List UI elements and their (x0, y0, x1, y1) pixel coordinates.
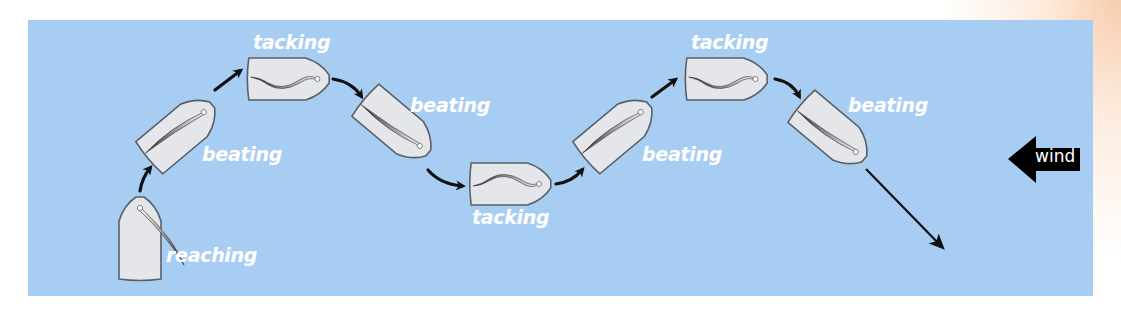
boat-tacking-3 (685, 58, 767, 100)
arrow-reaching-to-beating (140, 168, 150, 191)
boat-tacking-2 (470, 163, 551, 205)
label-beating-3: beating (642, 145, 722, 164)
label-beating-1: beating (202, 145, 282, 164)
arrow-beating-2-to-tacking-2 (428, 170, 462, 186)
label-tacking-2: tacking (472, 208, 549, 227)
label-tacking-3: tacking (691, 33, 768, 52)
arrow-tacking-1-to-beating-2 (333, 79, 361, 96)
boat-reaching (119, 197, 184, 281)
wind-label: wind (1035, 148, 1075, 165)
label-reaching: reaching (166, 246, 257, 265)
label-tacking-1: tacking (253, 33, 330, 52)
label-beating-4: beating (848, 96, 928, 115)
arrow-tacking-3-to-beating-4 (775, 79, 799, 96)
arrow-exit-course (866, 169, 942, 247)
label-beating-2: beating (410, 96, 490, 115)
arrow-beating-to-tacking-1 (215, 71, 240, 90)
arrow-beating-3-to-tacking-3 (652, 80, 675, 97)
arrow-tacking-2-to-beating-3 (556, 170, 582, 184)
boat-tacking-1 (247, 58, 329, 100)
